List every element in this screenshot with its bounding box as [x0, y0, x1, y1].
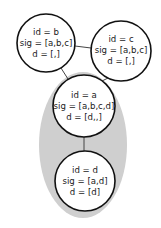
node-c-d: d = [,]	[107, 56, 135, 66]
node-a-id: id = a	[71, 90, 97, 100]
node-d: id = d sig = [a,d] d = [d]	[55, 151, 115, 211]
node-d-d: d = [d]	[70, 187, 100, 197]
node-c-id: id = c	[108, 34, 134, 44]
edge-b-c	[75, 46, 91, 48]
node-b-id: id = b	[33, 27, 59, 37]
diagram-canvas: id = b sig = [a,b,c] d = [,] id = c sig …	[0, 0, 161, 228]
node-c-sig: sig = [a,b,c]	[95, 45, 148, 55]
node-a-d: d = [d,,]	[66, 112, 102, 122]
node-a-sig: sig = [a,b,c,d]	[54, 101, 115, 111]
node-c: id = c sig = [a,b,c] d = [,]	[91, 21, 151, 81]
node-d-sig: sig = [a,d]	[62, 176, 107, 186]
node-b-d: d = [,]	[32, 49, 60, 59]
node-d-id: id = d	[72, 165, 98, 175]
node-b: id = b sig = [a,b,c] d = [,]	[17, 14, 75, 72]
edge-b-a	[61, 68, 68, 79]
node-b-sig: sig = [a,b,c]	[20, 38, 73, 48]
node-a: id = a sig = [a,b,c,d] d = [d,,]	[53, 75, 115, 137]
